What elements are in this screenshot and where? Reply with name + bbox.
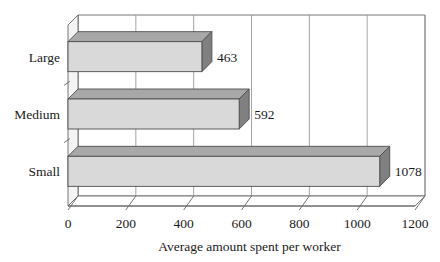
category-label-large: Large	[29, 50, 60, 65]
bar-group-large	[68, 32, 212, 72]
bar-top-face	[68, 146, 390, 156]
x-tick-label-0: 0	[65, 216, 72, 231]
x-tick-label-5: 1000	[344, 216, 371, 231]
x-axis-title: Average amount spent per worker	[158, 239, 341, 254]
category-label-small: Small	[28, 164, 60, 179]
bar-top-face	[68, 89, 249, 99]
bar-value-label-small: 1078	[395, 164, 422, 179]
floor	[68, 196, 425, 206]
chart-canvas: 4635921078LargeMediumSmall02004006008001…	[0, 0, 440, 262]
bar-group-medium	[68, 89, 249, 129]
x-tick-label-6: 1200	[402, 216, 429, 231]
bar-front-face	[68, 99, 239, 129]
bar-front-face	[68, 156, 380, 186]
x-tick-label-2: 400	[174, 216, 195, 231]
bar-front-face	[68, 42, 202, 72]
bar-value-label-medium: 592	[254, 107, 274, 122]
category-label-medium: Medium	[14, 107, 60, 122]
x-tick-label-4: 800	[289, 216, 310, 231]
bar-top-face	[68, 32, 212, 42]
bar-chart: 4635921078LargeMediumSmall02004006008001…	[0, 0, 440, 262]
bar-group-small	[68, 146, 390, 186]
x-tick-label-1: 200	[116, 216, 137, 231]
x-tick-label-3: 600	[231, 216, 252, 231]
bar-value-label-large: 463	[217, 50, 238, 65]
